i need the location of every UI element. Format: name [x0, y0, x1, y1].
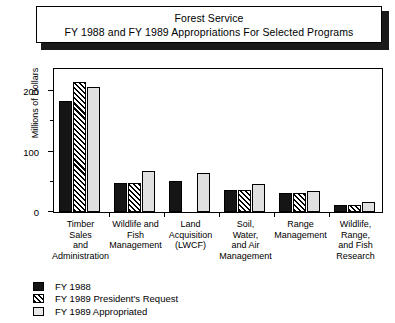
- x-axis-category-label-line: and Fish: [318, 240, 393, 251]
- x-axis-tick: [164, 212, 165, 217]
- x-axis-tick: [274, 212, 275, 217]
- bar: [224, 190, 238, 212]
- bar: [334, 205, 348, 212]
- x-axis-category-label-line: Administration: [43, 251, 118, 262]
- legend-swatch: [33, 282, 44, 291]
- bar: [73, 82, 87, 212]
- bar: [293, 193, 307, 212]
- bar: [142, 171, 156, 212]
- bar: [169, 181, 183, 212]
- legend-label: FY 1988: [55, 281, 91, 292]
- legend-item: FY 1989 President's Request: [33, 293, 178, 306]
- bar: [362, 202, 376, 212]
- y-axis-tick-label: 0: [34, 207, 39, 218]
- chart-legend: FY 1988FY 1989 President's RequestFY 198…: [33, 280, 178, 318]
- chart-title-line-1: Forest Service: [174, 11, 243, 25]
- x-axis-category-label-line: Research: [318, 251, 393, 262]
- bar: [87, 87, 101, 212]
- legend-swatch: [33, 307, 44, 316]
- bar-group: [164, 69, 219, 212]
- bar: [252, 184, 266, 212]
- bar: [59, 101, 73, 212]
- legend-item: FY 1989 Appropriated: [33, 305, 178, 318]
- plot-area: 0100200: [53, 68, 383, 213]
- x-axis-category-label-line: Range,: [318, 230, 393, 241]
- bar: [128, 183, 142, 212]
- x-axis-category-label-line: and Air: [208, 240, 283, 251]
- bar: [197, 173, 211, 212]
- bar: [238, 190, 252, 212]
- legend-label: FY 1989 President's Request: [55, 293, 178, 304]
- x-axis-tick: [219, 212, 220, 217]
- plot-inner: 0100200: [54, 69, 382, 212]
- x-axis-category-label-line: Management: [208, 251, 283, 262]
- x-axis-labels: TimberSalesandAdministrationWildlife and…: [53, 219, 383, 271]
- y-axis-title: Millions of Dollars: [30, 23, 40, 183]
- x-axis-tick: [329, 212, 330, 217]
- bar: [114, 183, 128, 212]
- x-axis-tick: [109, 212, 110, 217]
- legend-item: FY 1988: [33, 280, 178, 293]
- bar: [348, 205, 362, 212]
- y-axis-tick-label: 100: [23, 146, 39, 157]
- legend-swatch: [33, 294, 44, 303]
- bar-group: [219, 69, 274, 212]
- bar-group: [329, 69, 384, 212]
- x-axis-category-label-line: Wildlife,: [318, 219, 393, 230]
- x-axis-category-label: Wildlife,Range,and FishResearch: [318, 219, 393, 261]
- chart-title-box: Forest Service FY 1988 and FY 1989 Appro…: [36, 6, 382, 43]
- bar-group: [109, 69, 164, 212]
- y-axis-tick-label: 200: [23, 86, 39, 97]
- bar-group: [274, 69, 329, 212]
- bar: [279, 193, 293, 212]
- bar-group: [54, 69, 109, 212]
- legend-label: FY 1989 Appropriated: [55, 306, 147, 317]
- chart-title-line-2: FY 1988 and FY 1989 Appropriations For S…: [65, 25, 354, 39]
- bar: [307, 191, 321, 212]
